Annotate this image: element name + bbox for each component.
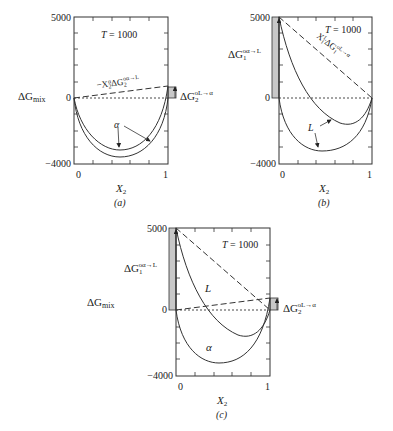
bar-label-a: ΔG2oL→α [180, 89, 213, 104]
xtick-right-b: 1 [367, 169, 372, 180]
left-bar-label-c: ΔG1oα→L [124, 261, 157, 276]
delta-g1-bar-c [169, 228, 176, 310]
ylabel-a: ΔGmix [18, 90, 45, 104]
ylabel-b: ΔG1oα→L [228, 47, 261, 62]
alpha-arrow-1 [118, 128, 119, 147]
alpha-arrow-2 [124, 126, 150, 141]
panel-a: 5000 0 −4000 0 1 T = 1000 ΔGmix α −X2αΔG… [18, 12, 213, 209]
ytick-zero-b: 0 [265, 92, 270, 103]
l-label-c: L [204, 282, 211, 294]
ticks-c [176, 228, 270, 376]
figure-canvas: 5000 0 −4000 0 1 T = 1000 ΔGmix α −X2αΔG… [0, 0, 393, 431]
alpha-label-c: α [206, 341, 212, 353]
xlabel-c: X2 [216, 394, 228, 408]
temperature-label-c: T = 1000 [222, 239, 258, 250]
xtick-right-c: 1 [265, 381, 270, 392]
alpha-curve-lower [74, 98, 168, 157]
plot-frame-c [176, 228, 270, 376]
ytick-top-c: 5000 [147, 223, 167, 234]
temperature-label-a: T = 1000 [101, 29, 137, 40]
tangent-line-a [74, 86, 168, 98]
caption-c: (c) [216, 409, 228, 421]
caption-b: (b) [318, 197, 330, 209]
panel-b: 5000 0 −4000 0 1 T = 1000 ΔG1oα→L L X1LΔ… [228, 12, 372, 209]
panel-c: 5000 0 −4000 0 1 T = 1000 ΔGmix ΔG1oα→L … [87, 223, 316, 421]
ytick-zero-a: 0 [66, 92, 71, 103]
ytick-top-a: 5000 [51, 12, 71, 23]
ytick-top-b: 5000 [250, 12, 270, 23]
tangent-label-a: −X2αΔG2oα→L [96, 74, 140, 91]
temperature-label-b: T = 1000 [325, 24, 361, 35]
l-arrow-2 [315, 133, 318, 147]
l-curve-original [279, 98, 372, 151]
caption-a: (a) [114, 197, 126, 209]
ylabel-c: ΔGmix [87, 296, 114, 310]
alpha-tangent-c [176, 298, 270, 310]
alpha-curve-upper [74, 86, 168, 150]
ytick-bottom-c: −4000 [147, 370, 173, 381]
l-label-b: L [307, 122, 314, 133]
alpha-label-a: α [114, 119, 120, 130]
ytick-bottom-b: −4000 [250, 158, 276, 169]
ytick-zero-c: 0 [162, 304, 167, 315]
l-arrow-1 [320, 120, 331, 126]
xtick-left-a: 0 [76, 169, 81, 180]
xlabel-b: X2 [318, 182, 330, 196]
xlabel-a: X2 [115, 182, 127, 196]
delta-g1-bar [272, 17, 279, 98]
ytick-bottom-a: −4000 [45, 158, 71, 169]
xtick-right-a: 1 [163, 169, 168, 180]
bar-label-c: ΔG2oL→α [283, 301, 316, 316]
xtick-left-b: 0 [280, 169, 285, 180]
xtick-left-c: 0 [178, 381, 183, 392]
